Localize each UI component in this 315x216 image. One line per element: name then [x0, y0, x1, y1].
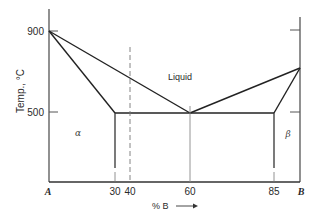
x-tick-40: 40 — [124, 186, 136, 197]
x-tick-30: 30 — [109, 186, 121, 197]
solidus-alpha — [49, 31, 115, 113]
x-tick-85: 85 — [268, 186, 280, 197]
y-tick-900: 900 — [27, 26, 44, 37]
region-beta-label: β — [284, 129, 290, 139]
x-axis-label: % B — [152, 201, 169, 211]
y-tick-500: 500 — [27, 107, 44, 118]
solidus-beta — [274, 68, 300, 113]
region-alpha-label: α — [75, 128, 81, 138]
liquidus-b — [190, 68, 300, 113]
x-endpoint-a: A — [44, 186, 52, 197]
x-tick-60: 60 — [184, 186, 196, 197]
region-liquid-label: Liquid — [168, 72, 192, 82]
x-endpoint-b: B — [297, 186, 305, 197]
phase-diagram: 900 500 Temp., °C A 30 40 60 85 B % B Li… — [0, 0, 315, 216]
y-axis-label: Temp., °C — [15, 69, 26, 113]
x-axis-arrow-icon — [193, 204, 198, 209]
